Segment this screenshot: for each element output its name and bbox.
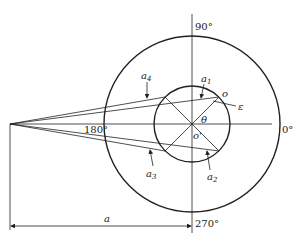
arrow-a2 bbox=[207, 151, 210, 170]
label-270-degrees: 270° bbox=[195, 218, 219, 229]
label-a3: a3 bbox=[146, 168, 157, 181]
label-90-degrees: 90° bbox=[195, 21, 213, 32]
ray-a4 bbox=[10, 97, 165, 124]
label-a1: a1 bbox=[201, 73, 211, 86]
label-a2: a2 bbox=[207, 171, 218, 184]
label-0-degrees: 0° bbox=[282, 124, 293, 135]
label-180-degrees: 180° bbox=[84, 124, 108, 135]
label-a4: a4 bbox=[141, 70, 151, 83]
arrow-a1 bbox=[201, 84, 204, 98]
label-theta: θ bbox=[201, 114, 207, 125]
label-o: o bbox=[222, 88, 228, 99]
arrow-a3 bbox=[150, 150, 153, 166]
label-o-prime: o' bbox=[193, 130, 202, 141]
label-dimension-a: a bbox=[104, 213, 110, 224]
diagram-canvas: 90° 0° 180° 270° a4 a1 a3 a2 o ε θ o' a bbox=[0, 0, 306, 241]
label-epsilon: ε bbox=[238, 101, 243, 112]
